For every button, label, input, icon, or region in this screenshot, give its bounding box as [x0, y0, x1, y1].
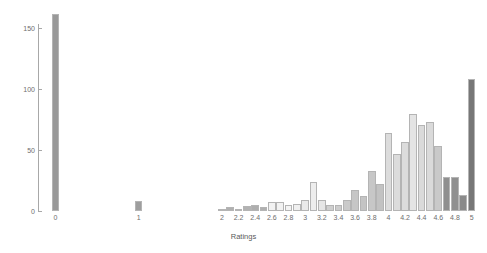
y-axis: 050100150 — [38, 10, 39, 211]
bar — [226, 207, 234, 211]
x-tick-label: 2.4 — [250, 214, 260, 221]
x-tick-label: 5 — [470, 214, 474, 221]
y-tick-label: 100 — [23, 86, 35, 93]
bar — [401, 142, 409, 211]
x-axis-tick-labels: 0122.22.42.62.833.23.43.63.844.24.44.64.… — [45, 214, 482, 228]
bar — [310, 182, 318, 211]
y-tick-label: 150 — [23, 25, 35, 32]
y-tick — [38, 89, 42, 90]
bar — [335, 205, 343, 211]
y-tick-label: 50 — [27, 147, 35, 154]
bar — [468, 79, 476, 211]
bar — [426, 122, 434, 211]
x-tick-label: 3.4 — [334, 214, 344, 221]
bar — [318, 200, 326, 211]
bar — [52, 14, 60, 211]
x-tick-label: 4.6 — [433, 214, 443, 221]
x-tick-label: 3.6 — [350, 214, 360, 221]
x-tick-label: 4.4 — [417, 214, 427, 221]
x-tick-label: 2.2 — [234, 214, 244, 221]
x-tick-label: 1 — [137, 214, 141, 221]
x-tick-label: 4 — [386, 214, 390, 221]
bar — [326, 205, 334, 211]
bar — [268, 202, 276, 211]
x-tick-label: 4.8 — [450, 214, 460, 221]
bar — [251, 205, 259, 211]
bar — [434, 146, 442, 211]
y-tick — [38, 150, 42, 151]
x-tick-label: 3.2 — [317, 214, 327, 221]
y-tick-label: 0 — [31, 208, 35, 215]
bar — [260, 207, 268, 211]
x-tick-label: 3.8 — [367, 214, 377, 221]
bar — [368, 171, 376, 211]
bar — [285, 205, 293, 211]
x-tick-label: 2.8 — [284, 214, 294, 221]
bar — [418, 125, 426, 211]
bar — [376, 184, 384, 211]
x-tick-label: 2.6 — [267, 214, 277, 221]
histogram-chart: 050100150 0122.22.42.62.833.23.43.63.844… — [0, 0, 487, 253]
bar — [351, 190, 359, 211]
bar — [360, 196, 368, 211]
plot-area — [45, 10, 482, 211]
bar — [276, 202, 284, 211]
bar — [218, 209, 226, 211]
x-tick-label: 4.2 — [400, 214, 410, 221]
bar — [409, 114, 417, 211]
bar — [459, 195, 467, 211]
bar — [385, 133, 393, 211]
bar — [451, 177, 459, 211]
bar — [135, 201, 143, 211]
x-tick-label: 2 — [220, 214, 224, 221]
x-tick-label: 3 — [303, 214, 307, 221]
bar — [243, 206, 251, 211]
bar — [393, 154, 401, 211]
x-tick-label: 0 — [53, 214, 57, 221]
bar — [235, 209, 243, 211]
y-axis-line — [38, 24, 39, 211]
y-tick — [38, 211, 42, 212]
bar — [301, 200, 309, 211]
bar — [343, 200, 351, 211]
bar — [293, 204, 301, 211]
bar — [443, 177, 451, 211]
x-axis-title: Ratings — [0, 233, 487, 241]
y-tick — [38, 28, 42, 29]
bar-group — [45, 10, 482, 211]
